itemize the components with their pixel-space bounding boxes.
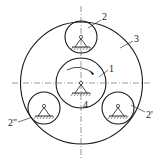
label-ring-3: 3 — [134, 33, 139, 44]
leader-line-2-double-prime — [18, 118, 30, 122]
label-frame-4: 4 — [83, 99, 88, 110]
rotation-arrow-icon — [67, 67, 94, 75]
label-planet-2-prime: 2' — [146, 109, 153, 120]
label-planet-2-double-prime: 2" — [8, 117, 17, 128]
ground-support-icon-right — [108, 104, 128, 119]
planetary-gear-diagram: 2 3 1 4 2' 2" — [0, 0, 166, 163]
ground-support-icon-left — [34, 104, 54, 119]
label-planet-2: 2 — [102, 11, 107, 22]
label-sun-1: 1 — [109, 63, 114, 74]
